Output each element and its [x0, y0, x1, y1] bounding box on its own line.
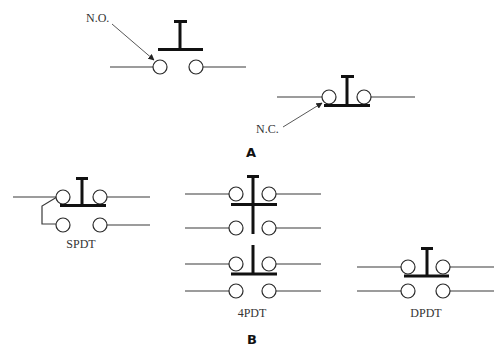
4pdt-switch: 4PDT [185, 176, 321, 320]
nc-switch: N.C. [256, 76, 415, 136]
no-switch: N.O. [86, 11, 246, 74]
dpdt-switch: DPDT [357, 248, 494, 320]
spdt-switch: SPDT [13, 178, 150, 251]
no-callout: N.O. [86, 11, 109, 25]
dpdt-caption: DPDT [410, 306, 442, 320]
panel-a-label: A [246, 145, 256, 160]
spdt-caption: SPDT [66, 237, 96, 251]
switch-diagram: N.O. N.C. A SPDT [0, 0, 504, 354]
nc-callout: N.C. [256, 122, 279, 136]
panel-b-label: B [247, 332, 257, 347]
4pdt-caption: 4PDT [238, 306, 267, 320]
